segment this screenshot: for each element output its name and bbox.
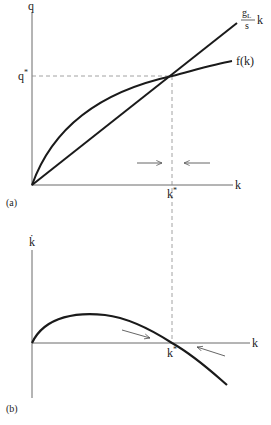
down-right-arrow-icon bbox=[122, 330, 150, 338]
panel-b-k-star-label: k* bbox=[167, 345, 177, 360]
panel-a-k-star-label: k* bbox=[167, 186, 177, 201]
panel-a-tag: (a) bbox=[6, 197, 17, 209]
panel-a-y-axis-label: q bbox=[28, 0, 34, 13]
panel-a: q k q* k* gL s k f(k) (a) bbox=[6, 0, 263, 343]
panel-b-y-axis-label: k̇ bbox=[29, 234, 35, 249]
svg-text:s: s bbox=[245, 20, 249, 31]
svg-text:k: k bbox=[257, 13, 263, 27]
panel-b: k̇ k k* (b) bbox=[6, 234, 258, 415]
up-left-arrow-icon bbox=[197, 347, 225, 356]
production-function-label: f(k) bbox=[236, 54, 254, 68]
q-star-label: q* bbox=[18, 68, 28, 83]
svg-text:gL: gL bbox=[242, 7, 251, 20]
production-function-curve bbox=[32, 61, 232, 185]
investment-line bbox=[32, 23, 237, 185]
panel-b-tag: (b) bbox=[6, 403, 18, 415]
capital-change-curve bbox=[32, 314, 227, 385]
panel-a-x-axis-label: k bbox=[235, 178, 241, 192]
solow-growth-diagram: q k q* k* gL s k f(k) (a) k̇ k k* bbox=[0, 0, 271, 425]
investment-line-label: gL s k bbox=[241, 7, 263, 31]
panel-b-x-axis-label: k bbox=[252, 336, 258, 350]
